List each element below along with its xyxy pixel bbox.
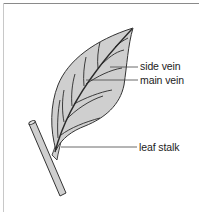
- leaf-blade: [52, 28, 133, 150]
- side-vein-label: side vein: [140, 61, 181, 72]
- leaf-diagram: [0, 0, 199, 212]
- main-vein-label: main vein: [140, 75, 184, 86]
- leaf-stalk-label: leaf stalk: [139, 142, 179, 153]
